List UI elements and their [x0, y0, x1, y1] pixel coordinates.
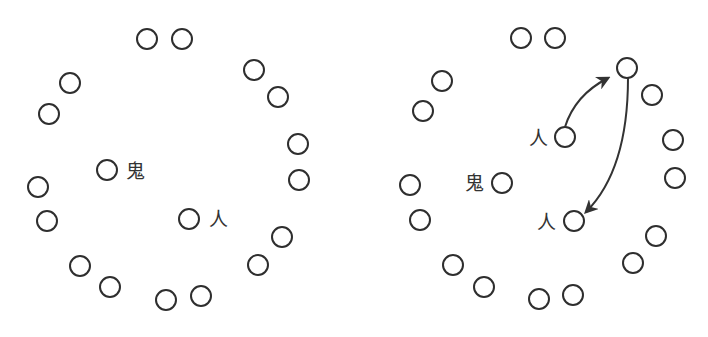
seat-circle	[623, 253, 643, 273]
panel-right-move-state: 鬼人人	[400, 28, 685, 309]
person-start-circle	[555, 127, 575, 147]
seat-circle	[400, 175, 420, 195]
oni-circle	[97, 160, 117, 180]
seat-circle	[39, 104, 59, 124]
seat-circle	[474, 277, 494, 297]
seat-circle	[100, 277, 120, 297]
seat-circle	[563, 285, 583, 305]
seat-circle	[137, 29, 157, 49]
oni-circle	[492, 173, 512, 193]
seat-circle	[288, 134, 308, 154]
person-end-label: 人	[537, 211, 556, 233]
seat-circle	[646, 226, 666, 246]
move-arrow	[586, 78, 628, 212]
seat-circle	[665, 168, 685, 188]
seat-circle	[545, 28, 565, 48]
seat-circle	[272, 227, 292, 247]
person-start-label: 人	[529, 127, 548, 149]
seat-circle	[28, 177, 48, 197]
target-seat-circle	[617, 58, 637, 78]
seat-circle	[60, 73, 80, 93]
person-circle	[179, 209, 199, 229]
seat-circle	[289, 170, 309, 190]
seat-circle	[663, 130, 683, 150]
oni-label: 鬼	[126, 160, 145, 182]
seat-circle	[70, 256, 90, 276]
seat-circle	[37, 211, 57, 231]
seat-circle	[191, 286, 211, 306]
seat-circle	[642, 85, 662, 105]
seat-circle	[432, 71, 452, 91]
person-label: 人	[209, 208, 228, 230]
seat-circle	[413, 101, 433, 121]
seat-circle	[268, 87, 288, 107]
seat-circle	[248, 255, 268, 275]
seat-circle	[410, 210, 430, 230]
seat-circle	[244, 60, 264, 80]
panel-left-initial-state: 鬼人	[28, 29, 309, 310]
seat-circle	[172, 29, 192, 49]
person-end-circle	[564, 211, 584, 231]
seat-circle	[511, 28, 531, 48]
game-diagram: 鬼人 鬼人人	[0, 0, 708, 337]
seat-circle	[443, 255, 463, 275]
seat-circle	[529, 289, 549, 309]
move-arrow	[565, 78, 608, 127]
seat-circle	[156, 290, 176, 310]
oni-label: 鬼	[465, 172, 484, 194]
